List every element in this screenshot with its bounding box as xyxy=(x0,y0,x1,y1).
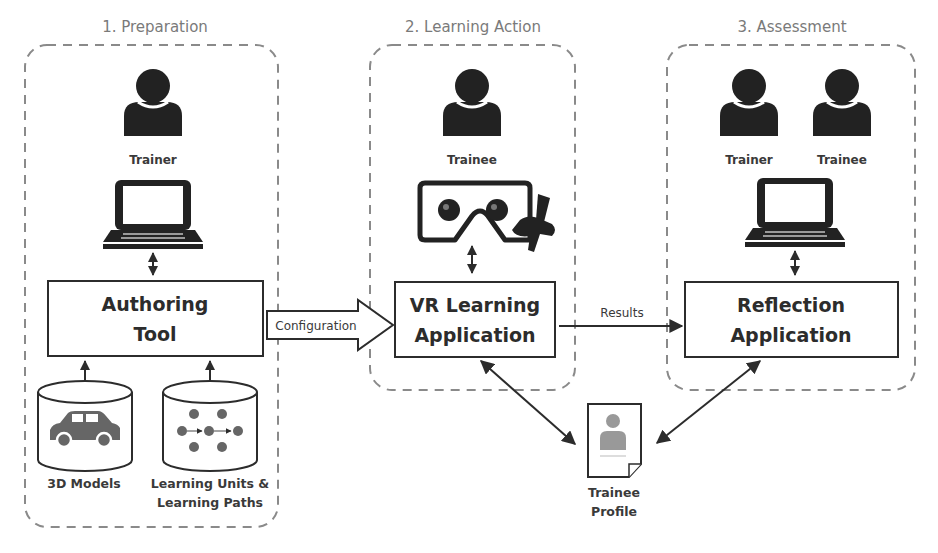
db-label-learning-units-2: Learning Paths xyxy=(157,495,263,510)
document-profile-icon xyxy=(588,404,641,477)
role-label-trainee: Trainee xyxy=(447,153,497,167)
reflection-app-label-2: Application xyxy=(730,324,851,346)
profile-label-2: Profile xyxy=(591,504,637,519)
laptop-icon xyxy=(103,180,203,249)
profile-label-1: Trainee xyxy=(588,485,640,500)
vr-app-label-2: Application xyxy=(414,324,535,346)
db-label-3d-models: 3D Models xyxy=(47,476,121,491)
laptop-icon xyxy=(745,178,845,247)
role-label-trainer: Trainer xyxy=(129,153,177,167)
trainer-person-icon xyxy=(720,69,778,136)
authoring-tool-label-1: Authoring xyxy=(102,293,209,315)
results-label: Results xyxy=(600,306,643,320)
trainer-person-icon xyxy=(124,69,182,136)
reflection-app-label-1: Reflection xyxy=(737,294,845,316)
authoring-tool-label-2: Tool xyxy=(133,323,176,345)
phase-title-assessment: 3. Assessment xyxy=(737,18,846,36)
vr-app-label-1: VR Learning xyxy=(410,294,540,316)
trainee-person-icon xyxy=(813,69,871,136)
database-3d-models xyxy=(38,381,132,471)
phase-title-learning-action: 2. Learning Action xyxy=(405,18,541,36)
reflection-profile-arrow xyxy=(657,361,760,443)
db-label-learning-units-1: Learning Units & xyxy=(151,476,270,491)
trainee-person-icon xyxy=(443,69,501,136)
spray-gun-icon xyxy=(512,194,555,252)
database-learning-units xyxy=(163,381,257,471)
role-label-trainee: Trainee xyxy=(817,153,867,167)
learning-process-diagram: 1. Preparation 2. Learning Action 3. Ass… xyxy=(0,0,938,553)
vr-profile-arrow xyxy=(481,361,575,444)
configuration-label: Configuration xyxy=(275,319,356,333)
role-label-trainer: Trainer xyxy=(725,153,773,167)
phase-title-preparation: 1. Preparation xyxy=(102,18,208,36)
